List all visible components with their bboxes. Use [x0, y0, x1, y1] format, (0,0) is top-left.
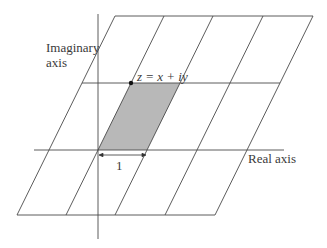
slanted-line-4 — [165, 16, 263, 215]
real-axis-label: Real axis — [248, 151, 296, 166]
imaginary-axis-label: Imaginary axis — [46, 40, 99, 70]
unit-length-marker — [99, 153, 146, 156]
point-z-label: z = x + iy — [137, 69, 188, 84]
imaginary-axis-label-line1: Imaginary — [46, 40, 99, 55]
unit-label: 1 — [116, 158, 123, 173]
lattice-diagram — [0, 0, 327, 248]
arrow-left-icon — [99, 153, 103, 156]
slanted-line-5 — [215, 16, 313, 215]
point-z-marker — [129, 81, 133, 85]
shaded-fundamental-cell — [98, 83, 180, 150]
imaginary-axis-label-line2: axis — [46, 55, 99, 70]
